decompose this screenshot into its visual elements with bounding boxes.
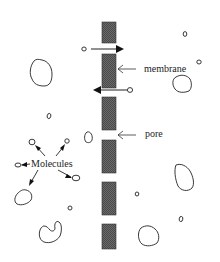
membrane-pointer-arrow <box>118 65 136 73</box>
membrane-block <box>102 97 116 130</box>
membrane <box>102 22 116 249</box>
molecule-large <box>30 59 52 86</box>
molecule-large <box>15 190 32 205</box>
small-molecules <box>47 32 202 222</box>
transport-arrow-right <box>82 45 124 53</box>
molecule-large <box>138 226 158 246</box>
membrane-block <box>102 140 116 173</box>
molecule-large <box>173 75 192 92</box>
molecule-large <box>39 221 61 242</box>
membrane-label: membrane <box>144 64 186 74</box>
molecule-large <box>175 164 194 190</box>
molecule-large <box>85 132 93 143</box>
membrane-diagram <box>0 0 220 262</box>
pore-pointer-arrow <box>118 131 136 139</box>
pore-label: pore <box>145 129 163 139</box>
membrane-block <box>102 182 116 215</box>
membrane-block <box>102 22 116 43</box>
membrane-block <box>102 54 116 88</box>
membrane-block <box>102 224 116 249</box>
molecules-label: Molecules <box>31 159 73 169</box>
